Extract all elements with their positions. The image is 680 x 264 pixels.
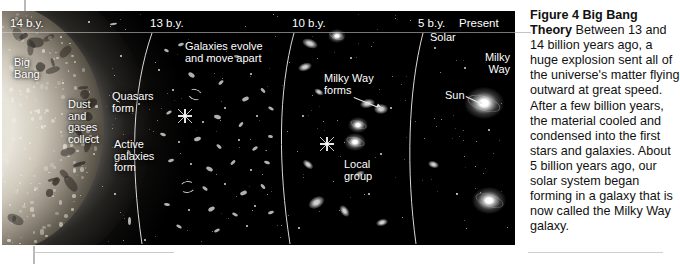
era-rule-extension: [515, 32, 531, 33]
era-label-present: Present: [459, 18, 499, 30]
bottom-rule: [34, 252, 174, 253]
label-big-bang: Big Bang: [14, 57, 40, 80]
present-galaxy-lower: [472, 187, 506, 214]
label-milky-way: Milky Way: [462, 52, 510, 75]
label-dust-and-gases: Dust and gases collect: [68, 99, 99, 145]
era-label-14by: 14 b.y.: [10, 18, 44, 30]
figure-caption: Figure 4 Big BangTheory Between 13 and 1…: [530, 8, 680, 244]
era-label-13by: 13 b.y.: [150, 18, 184, 30]
label-milky-way-forms: Milky Way forms: [324, 73, 374, 96]
caption-body: Between 13 and 14 billion years ago, a h…: [530, 23, 679, 233]
label-solar: Solar: [430, 32, 456, 44]
left-margin-rule-bottom: [33, 246, 35, 264]
big-bang-timeline-image: 14 b.y. 13 b.y. 10 b.y. 5 b.y. Present B…: [2, 11, 515, 245]
era-label-5by: 5 b.y.: [418, 18, 445, 30]
era-label-10by: 10 b.y.: [292, 18, 326, 30]
label-sun: Sun: [445, 90, 465, 102]
caption-heading: Figure 4 Big Bang: [530, 8, 638, 22]
caption-bottom-rule: [528, 252, 663, 253]
label-local-group: Local group: [344, 159, 372, 182]
left-margin-rule-top: [24, 0, 26, 11]
label-quasars-form: Quasars form: [112, 91, 154, 114]
label-active-galaxies-form: Active galaxies form: [114, 139, 154, 174]
label-galaxies-evolve: Galaxies evolve and move apart: [185, 41, 263, 64]
caption-heading-2: Theory: [530, 23, 572, 37]
